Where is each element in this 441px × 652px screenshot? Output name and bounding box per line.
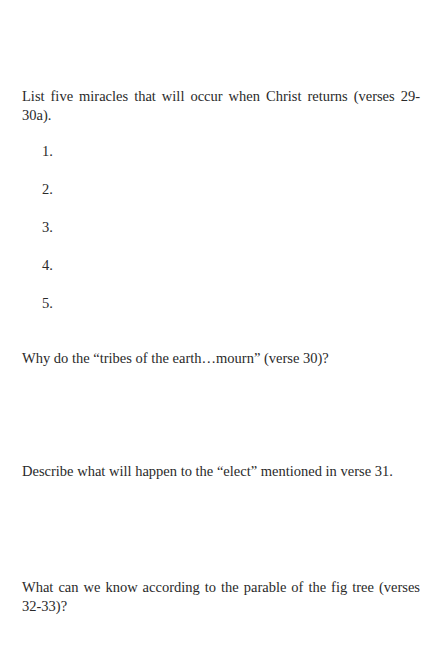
list-number-1: 1. — [42, 143, 53, 160]
question-miracles: List five miracles that will occur when … — [22, 87, 420, 125]
question-fig-tree: What can we know according to the parabl… — [22, 578, 420, 616]
question-elect: Describe what will happen to the “elect”… — [22, 462, 420, 481]
question-tribes-mourn: Why do the “tribes of the earth…mourn” (… — [22, 349, 420, 368]
list-number-4: 4. — [42, 257, 53, 274]
list-number-2: 2. — [42, 181, 53, 198]
list-number-3: 3. — [42, 219, 53, 236]
list-number-5: 5. — [42, 295, 53, 312]
